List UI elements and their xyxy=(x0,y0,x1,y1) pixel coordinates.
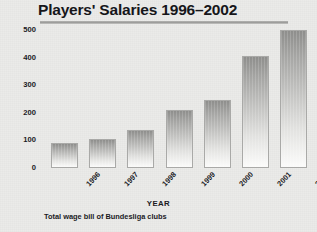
bars-layer xyxy=(45,30,313,168)
y-tick-label: 400 xyxy=(23,54,36,62)
y-tick-label: 200 xyxy=(23,109,36,117)
bar-1997 xyxy=(89,139,116,168)
bar-2002 xyxy=(280,30,307,168)
y-tick-label: 100 xyxy=(23,136,36,144)
chart-title: Players' Salaries 1996–2002 xyxy=(38,1,237,19)
bar-2001 xyxy=(242,56,269,168)
x-tick-label-2001: 2001 xyxy=(275,170,293,188)
x-tick-label-2002: 2002 xyxy=(314,170,317,188)
chart-canvas: Players' Salaries 1996–2002 EUROS (MILLI… xyxy=(0,0,317,232)
y-tick-label: 0 xyxy=(32,164,36,172)
y-axis-tick-labels: 5004003002001000 xyxy=(0,30,36,170)
bar-1999 xyxy=(166,110,193,168)
x-tick-label-1996: 1996 xyxy=(84,170,102,188)
x-tick-label-1998: 1998 xyxy=(160,170,178,188)
x-tick-label-2000: 2000 xyxy=(237,170,255,188)
y-tick-label: 500 xyxy=(23,26,36,34)
y-tick-label: 300 xyxy=(23,81,36,89)
bar-1998 xyxy=(127,130,154,168)
x-axis-title: YEAR xyxy=(0,199,317,208)
x-tick-label-1997: 1997 xyxy=(122,170,140,188)
bar-2000 xyxy=(204,100,231,168)
x-axis-tick-labels: 1996199719981999200020012002 xyxy=(45,170,313,200)
title-divider-rule xyxy=(40,21,288,24)
chart-caption: Total wage bill of Bundesliga clubs xyxy=(44,212,167,221)
bar-1996 xyxy=(51,143,78,168)
x-tick-label-1999: 1999 xyxy=(199,170,217,188)
